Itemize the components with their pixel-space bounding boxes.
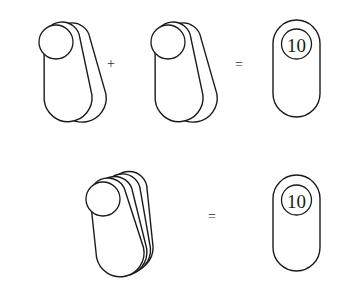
plus-operator: + [107, 56, 115, 71]
diagram-canvas: + = 10 = 10 [0, 0, 344, 282]
result-value: 10 [287, 35, 306, 56]
result-tag-row2: 10 [273, 175, 320, 271]
hole-circle [39, 25, 73, 59]
result-tag-row1: 10 [273, 20, 320, 117]
stacked-tags [79, 162, 173, 282]
hole-circle [86, 182, 120, 216]
hole-circle [151, 25, 185, 59]
result-value: 10 [287, 191, 306, 212]
double-tag-left [36, 18, 110, 128]
equals-operator: = [235, 57, 243, 72]
double-tag-right [147, 18, 221, 128]
equals-operator: = [208, 209, 216, 224]
